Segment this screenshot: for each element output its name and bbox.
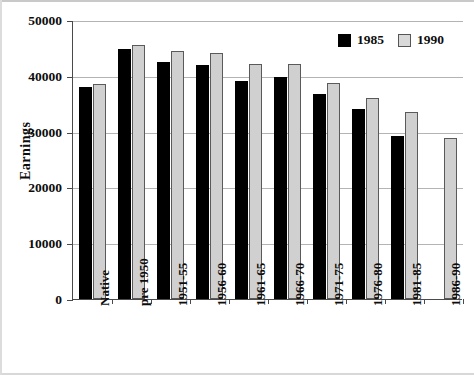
bar-group	[268, 20, 307, 299]
bar-group	[424, 20, 463, 299]
legend-entry-1985: 1985	[338, 32, 384, 48]
x-tick-label-group: Nativepre 19501951-551956-601961-651966-…	[72, 300, 462, 375]
bar-group	[307, 20, 346, 299]
bar-1985	[313, 94, 327, 299]
figure-canvas: Earnings 50000 40000 30000 20000 10000 0…	[0, 0, 474, 375]
bar-group	[190, 20, 229, 299]
bar-1985	[157, 62, 171, 299]
x-tick-label: 1956-60	[214, 263, 230, 306]
x-tick-label: 1951-55	[175, 263, 191, 306]
y-tick-label: 50000	[28, 13, 62, 29]
legend-swatch-icon	[398, 34, 411, 47]
plot-area	[72, 21, 462, 300]
x-tick-label: pre 1950	[136, 258, 152, 306]
bar-group	[112, 20, 151, 299]
y-tick-label: 10000	[28, 236, 62, 252]
y-tick-label-group: 50000 40000 30000 20000 10000 0	[0, 0, 72, 375]
x-tick-label: 1971-75	[331, 263, 347, 306]
bar-group	[229, 20, 268, 299]
legend-label: 1985	[357, 32, 384, 48]
bar-group	[73, 20, 112, 299]
bar-group	[346, 20, 385, 299]
y-tick-label: 30000	[28, 125, 62, 141]
y-tick-label: 40000	[28, 69, 62, 85]
bar-1985	[391, 136, 405, 299]
bar-1985	[352, 109, 366, 299]
bar-group	[385, 20, 424, 299]
x-tick-label: 1966-70	[292, 263, 308, 306]
bar-1985	[79, 87, 93, 299]
bar-1985	[196, 65, 210, 299]
x-tick-label: 1986-90	[448, 263, 464, 306]
bar-1985	[118, 49, 132, 299]
x-tick-label: 1961-65	[253, 263, 269, 306]
legend: 1985 1990	[338, 32, 444, 48]
bar-group	[151, 20, 190, 299]
legend-swatch-icon	[338, 34, 351, 47]
y-tick-label: 20000	[28, 180, 62, 196]
legend-entry-1990: 1990	[398, 32, 444, 48]
x-tick-label: Native	[97, 270, 113, 306]
bar-1985	[274, 77, 288, 299]
x-tick-label: 1981-85	[409, 263, 425, 306]
bar-1990	[93, 84, 107, 299]
bar-1985	[235, 81, 249, 299]
x-tick-label: 1976-80	[370, 263, 386, 306]
legend-label: 1990	[417, 32, 444, 48]
y-tick-label: 0	[55, 292, 62, 308]
